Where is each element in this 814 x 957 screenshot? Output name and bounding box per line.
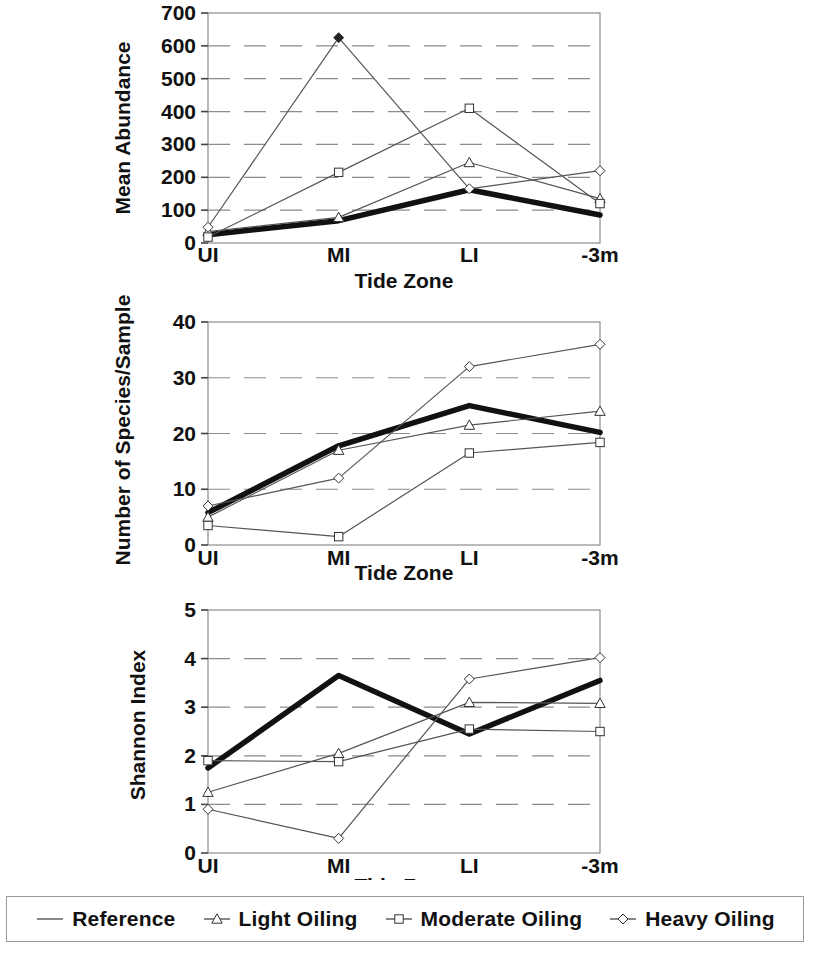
square-marker bbox=[204, 756, 212, 764]
y-tick-label: 500 bbox=[161, 67, 196, 90]
diamond-marker bbox=[595, 653, 605, 663]
x-tick-label: MI bbox=[327, 546, 350, 569]
square-marker bbox=[465, 725, 473, 733]
y-tick-label: 400 bbox=[161, 100, 196, 123]
series-line bbox=[208, 163, 600, 232]
legend-items: ReferenceLight OilingModerate OilingHeav… bbox=[35, 907, 775, 931]
y-tick-label: 0 bbox=[184, 533, 196, 556]
plot-frame bbox=[208, 610, 600, 853]
chart-panel-shannon-index: 012345UIMILI-3mTide ZoneShannon Index bbox=[0, 580, 814, 880]
x-axis-title: Tide Zone bbox=[355, 874, 454, 880]
square-marker bbox=[334, 532, 342, 540]
y-tick-label: 200 bbox=[161, 165, 196, 188]
diamond-marker-icon bbox=[608, 911, 638, 927]
figure-container: 0100200300400500600700UIMILI-3mTide Zone… bbox=[0, 0, 814, 957]
diamond-marker bbox=[203, 804, 213, 814]
square-marker bbox=[334, 757, 342, 765]
x-tick-label: MI bbox=[327, 854, 350, 877]
square-marker bbox=[596, 199, 604, 207]
y-axis-title: Mean Abundance bbox=[111, 41, 134, 214]
diamond-marker bbox=[618, 914, 628, 924]
square-marker bbox=[596, 438, 604, 446]
legend-item-label: Light Oiling bbox=[239, 907, 358, 931]
y-tick-label: 700 bbox=[161, 1, 196, 24]
x-tick-label: LI bbox=[460, 546, 479, 569]
y-tick-label: 30 bbox=[173, 366, 196, 389]
triangle-marker-icon bbox=[202, 911, 232, 927]
y-axis-title: Shannon Index bbox=[126, 649, 149, 800]
legend-item: Heavy Oiling bbox=[608, 907, 775, 931]
y-tick-label: 20 bbox=[173, 422, 196, 445]
number-of-species-chart: 010203040UIMILI-3mTide ZoneNumber of Spe… bbox=[0, 290, 814, 580]
y-tick-label: 40 bbox=[173, 310, 196, 333]
series-line bbox=[208, 676, 600, 768]
x-tick-label: -3m bbox=[581, 854, 618, 877]
x-tick-label: MI bbox=[327, 243, 350, 266]
series-line bbox=[208, 729, 600, 762]
triangle-marker bbox=[333, 748, 343, 757]
series-line bbox=[208, 190, 600, 235]
x-tick-label: LI bbox=[460, 854, 479, 877]
legend-item: Moderate Oiling bbox=[384, 907, 583, 931]
square-marker bbox=[596, 727, 604, 735]
legend-item: Light Oiling bbox=[202, 907, 358, 931]
x-axis-title: Tide Zone bbox=[355, 269, 454, 290]
y-axis-title: Number of Species/Sample bbox=[111, 295, 134, 566]
y-tick-label: 600 bbox=[161, 34, 196, 57]
legend-item-label: Moderate Oiling bbox=[421, 907, 583, 931]
series-line bbox=[208, 38, 600, 228]
x-tick-label: UI bbox=[198, 854, 219, 877]
square-marker bbox=[204, 233, 212, 241]
square-marker bbox=[204, 521, 212, 529]
y-tick-label: 3 bbox=[184, 695, 196, 718]
series-line bbox=[208, 658, 600, 839]
diamond-marker bbox=[595, 339, 605, 349]
legend-item-label: Reference bbox=[72, 907, 175, 931]
y-tick-label: 0 bbox=[184, 841, 196, 864]
x-tick-label: -3m bbox=[581, 243, 618, 266]
y-tick-label: 10 bbox=[173, 477, 196, 500]
x-axis-title: Tide Zone bbox=[355, 561, 454, 580]
square-marker bbox=[394, 915, 402, 923]
square-marker bbox=[334, 168, 342, 176]
y-tick-label: 4 bbox=[184, 647, 196, 670]
y-tick-label: 5 bbox=[184, 598, 196, 621]
chart-legend: ReferenceLight OilingModerate OilingHeav… bbox=[6, 896, 804, 942]
x-tick-label: LI bbox=[460, 243, 479, 266]
mean-abundance-chart: 0100200300400500600700UIMILI-3mTide Zone… bbox=[0, 0, 814, 290]
triangle-marker bbox=[464, 157, 474, 166]
square-marker-icon bbox=[384, 911, 414, 927]
legend-item: Reference bbox=[35, 907, 175, 931]
x-tick-label: UI bbox=[198, 546, 219, 569]
shannon-index-chart: 012345UIMILI-3mTide ZoneShannon Index bbox=[0, 580, 814, 880]
triangle-marker bbox=[333, 212, 343, 221]
y-tick-label: 1 bbox=[184, 792, 196, 815]
square-marker bbox=[465, 449, 473, 457]
y-tick-label: 100 bbox=[161, 198, 196, 221]
legend-item-label: Heavy Oiling bbox=[645, 907, 775, 931]
y-tick-label: 300 bbox=[161, 132, 196, 155]
chart-panel-number-of-species: 010203040UIMILI-3mTide ZoneNumber of Spe… bbox=[0, 290, 814, 580]
chart-panel-mean-abundance: 0100200300400500600700UIMILI-3mTide Zone… bbox=[0, 0, 814, 290]
y-tick-label: 0 bbox=[184, 231, 196, 254]
y-tick-label: 2 bbox=[184, 744, 196, 767]
series-line bbox=[208, 702, 600, 792]
square-marker bbox=[465, 104, 473, 112]
x-tick-label: UI bbox=[198, 243, 219, 266]
series-line bbox=[208, 108, 600, 237]
reference-line-icon bbox=[35, 911, 65, 927]
diamond-marker bbox=[595, 166, 605, 176]
triangle-marker bbox=[595, 406, 605, 415]
x-tick-label: -3m bbox=[581, 546, 618, 569]
